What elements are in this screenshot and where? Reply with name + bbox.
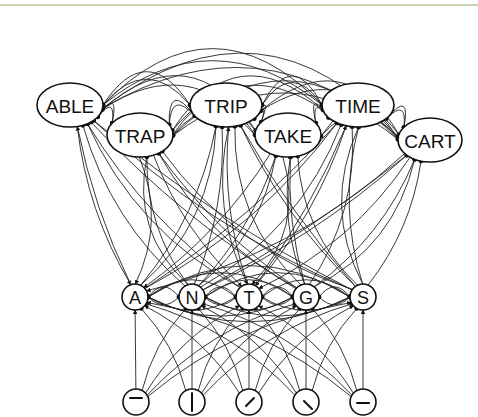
feature-node-circle — [123, 389, 149, 415]
inhibitory-connection — [146, 304, 295, 395]
letter-node-t: T — [236, 284, 262, 310]
feature-node-diagonal-down-right — [293, 389, 319, 415]
word-label: TIME — [335, 96, 380, 117]
inhibitory-connection — [262, 297, 293, 305]
feature-node-horizontal-top-bar — [123, 389, 149, 415]
inhibitory-connection — [314, 159, 415, 286]
word-label: TRAP — [115, 126, 166, 147]
letter-node-s: S — [350, 284, 376, 310]
network-diagram: ABLETRAPTRIPTAKETIMECART ANTGS — [0, 0, 478, 417]
inhibitory-connection — [314, 159, 415, 286]
feature-layer — [123, 389, 376, 415]
letter-node-g: G — [293, 284, 319, 310]
inhibitory-connection — [203, 304, 352, 395]
excitatory-connection — [223, 127, 248, 284]
word-node-time: TIME — [322, 83, 394, 127]
word-node-able: ABLE — [37, 83, 103, 127]
letter-node-a: A — [122, 284, 148, 310]
inhibitory-connection — [349, 127, 363, 284]
feature-node-diagonal-up-right — [236, 389, 262, 415]
excitatory-connection — [146, 306, 240, 393]
letter-node-n: N — [179, 284, 205, 310]
word-label: CART — [404, 131, 456, 152]
word-node-trip: TRIP — [190, 83, 262, 127]
inhibitory-connection — [262, 287, 293, 297]
inhibitory-connection — [147, 304, 295, 395]
word-node-trap: TRAP — [107, 113, 173, 157]
letter-label: S — [357, 288, 369, 308]
excitatory-connection — [147, 154, 405, 291]
inhibitory-connection — [205, 287, 236, 297]
feature-node-horizontal-middle-bar — [350, 389, 376, 415]
letter-label: N — [186, 288, 199, 308]
excitatory-connection — [135, 157, 151, 284]
letter-label: T — [244, 288, 255, 308]
excitatory-connection — [135, 310, 136, 389]
inhibitory-connection — [205, 297, 236, 305]
letter-label: G — [299, 288, 313, 308]
word-label: TAKE — [264, 126, 312, 147]
word-label: ABLE — [46, 96, 95, 117]
word-node-take: TAKE — [255, 113, 321, 157]
feature-node-vertical-bar — [179, 389, 205, 415]
inhibitory-connection — [203, 304, 352, 395]
word-node-cart: CART — [398, 118, 462, 162]
letter-label: A — [129, 288, 141, 308]
word-label: TRIP — [204, 96, 247, 117]
